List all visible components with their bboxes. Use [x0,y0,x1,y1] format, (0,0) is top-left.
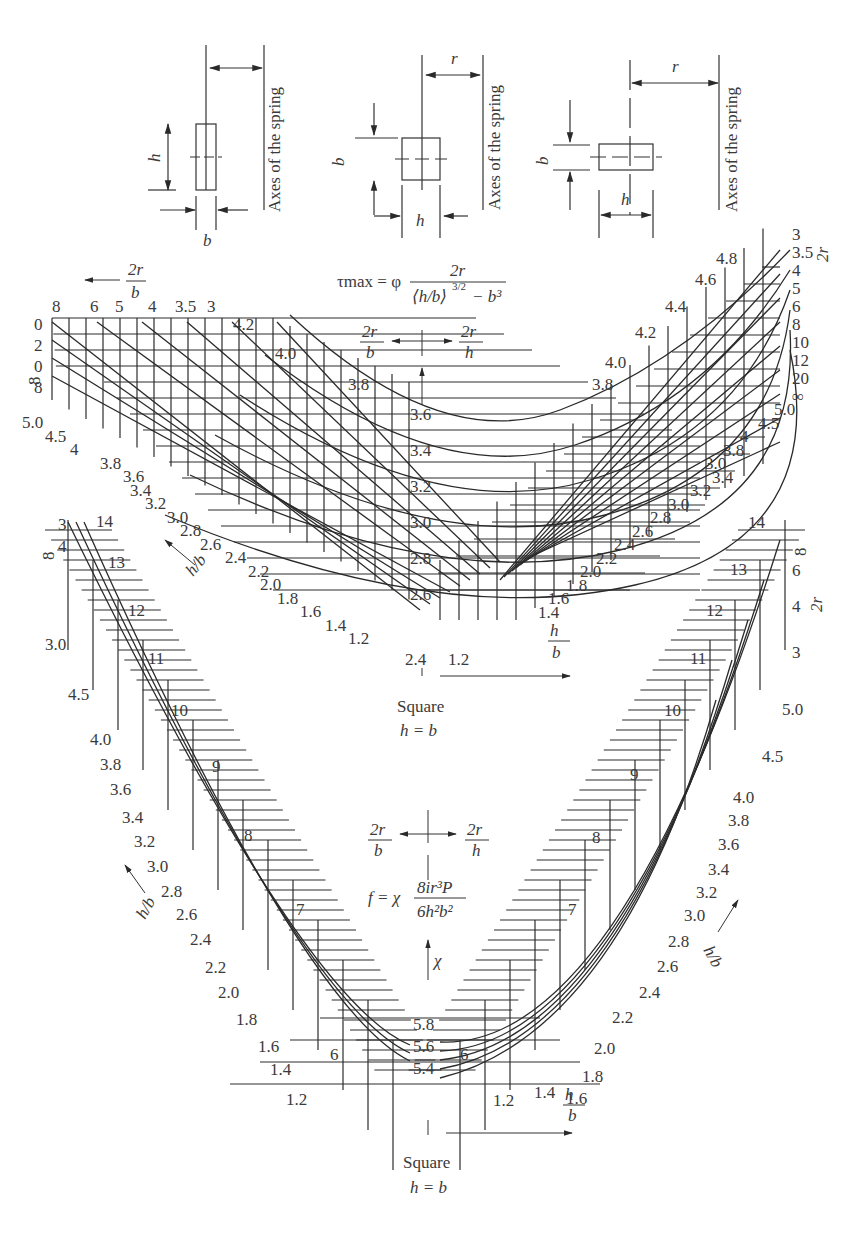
tick-chi-left: 12 [128,601,145,620]
tick-2r-h: 3.5 [792,243,813,262]
tick-hb-right: 5.0 [782,700,803,719]
tick-hb-left: 1.2 [286,1090,307,1109]
svg-text:h/b: h/b [182,551,211,580]
tick-hb-right: 1.4 [538,603,560,622]
tick-hb-right: 3.4 [712,468,734,487]
lower-curves [68,522,780,1078]
svg-text:h: h [550,621,559,640]
tick-2r-h: 4 [792,261,801,280]
svg-text:χ: χ [432,951,442,970]
tick-bottom-center: 2.4 [405,650,427,669]
tick-hb-left: 3.0 [45,635,66,654]
tick-phi-right: 4.4 [665,297,687,316]
tick-hb-left: 2.4 [190,930,212,949]
tick-phi-center: 3.4 [410,441,432,460]
tick-2r-h: 3 [792,643,801,662]
tick-chi-left: 8 [244,826,253,845]
tick-bottom-right: 1.2 [448,650,469,669]
tick-hb-left: 1.2 [348,629,369,648]
tick-hb-left: 1.8 [236,1010,257,1029]
tick-2r-h: 6 [792,561,801,580]
tick-left-edge: 0 [34,315,43,334]
right-axis-title: 2r [813,247,832,263]
svg-text:2r: 2r [467,820,483,839]
tick-hb-right: 4.5 [758,414,779,433]
tick-2r-b: 5 [115,297,124,316]
tick-chi-right: 14 [748,513,766,532]
hb-axis-upper: h b [422,621,570,676]
deflection-formula: f = χ 8ir³P 6h²b² [368,878,466,921]
svg-text:f = χ: f = χ [368,888,401,907]
svg-text:3/2: 3/2 [452,280,466,292]
tick-hb-left: 4.0 [90,730,111,749]
tick-2r-h: 5 [792,279,801,298]
tau-max-formula: τmax = φ 2r ⟨h/b⟩ 3/2 − b³ [337,261,506,306]
svg-text:h: h [465,343,474,362]
tick-2r-h: 12 [792,351,809,370]
top-left-2r-b-label: 2r b [85,260,146,302]
dim-label-h: h [621,190,630,209]
cross-section-wide: r b h Axes of the spring [533,55,741,238]
tick-hb-left: 3.6 [110,780,131,799]
svg-text:2r: 2r [370,820,386,839]
chi-curve-right [440,700,716,1078]
tick-hb-left: 3.8 [100,454,121,473]
tick-infinity: 8 [25,377,44,386]
tick-hb-right: 3.6 [718,835,739,854]
tick-left-edge: 0 [34,357,43,376]
lower-tick-labels: 348141312111098763.04.54.03.83.63.43.23.… [39,512,826,1110]
tick-hb-right: 2.6 [657,957,678,976]
chi-curve-right [440,660,732,1069]
tick-chi-left: 11 [148,649,164,668]
tick-2r-b: 3 [58,515,67,534]
svg-text:h: h [565,1085,574,1104]
tick-2r-h: 3 [792,225,801,244]
tick-chi-right: 13 [730,560,747,579]
tick-left-edge: 2 [34,336,43,355]
tick-hb-left: 2.8 [161,882,182,901]
tick-phi-right: 3.8 [592,375,613,394]
tick-2r-b: 4 [148,297,157,316]
tick-hb-left: 3.2 [134,832,155,851]
svg-text:b: b [374,841,383,860]
svg-text:τmax = φ: τmax = φ [337,272,401,291]
lower-chart: 2r b 2r h f = χ 8ir³P 6h²b² χ 3481413121… [39,512,826,1197]
direction-indicator-lower: 2r b 2r h [368,810,489,880]
tick-hb-left: 4 [70,440,79,459]
tick-phi-center: 2.6 [410,585,431,604]
tick-hb-left: 2.4 [225,548,247,567]
dim-label-r: r [672,57,679,76]
dim-label-b: b [203,231,212,250]
tick-2r-h: 6 [792,297,801,316]
tick-chi-right: 11 [690,649,706,668]
ratio-line [232,322,490,568]
tick-hb-right: 3.8 [728,811,749,830]
svg-text:b: b [552,643,561,662]
square-caption-lower: Square [403,1153,450,1172]
tick-hb-left: 3.0 [147,857,168,876]
square-caption: Square [397,697,444,716]
svg-text:2r: 2r [461,322,477,341]
axis-of-spring-label: Axes of the spring [485,84,504,210]
dim-label-b: b [329,158,348,167]
dim-label-b: b [533,157,552,166]
tick-hb-right: 1.2 [493,1091,514,1110]
tick-hb-left: 2.2 [205,958,226,977]
tick-2r-h: 8 [792,315,801,334]
tick-phi-center: 3.0 [410,513,431,532]
tick-chi-left: 9 [212,757,221,776]
tick-chi-left: 6 [330,1045,339,1064]
svg-text:2r: 2r [450,261,466,280]
tick-hb-left: 1.6 [300,602,321,621]
tick-hb-right: 4.0 [733,788,754,807]
chi-curve-right [440,540,780,1042]
tick-chi-left: 13 [108,553,125,572]
svg-text:⟨h/b⟩: ⟨h/b⟩ [412,287,447,306]
axis-of-spring-label: Axes of the spring [722,86,741,212]
tick-hb-left: 1.6 [258,1037,279,1056]
tick-hb-right: 2.8 [668,932,689,951]
tick-phi-right: 4.0 [605,353,626,372]
svg-text:b: b [366,343,375,362]
tick-hb-left: 4.5 [68,685,89,704]
tick-chi-right: 12 [706,601,723,620]
